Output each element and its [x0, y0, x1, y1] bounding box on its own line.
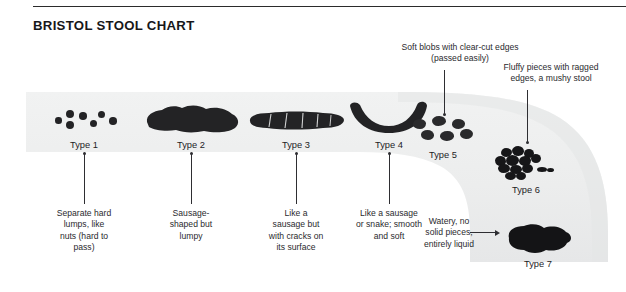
type-label-1: Type 1	[70, 140, 98, 150]
type-label-4: Type 4	[375, 140, 403, 150]
caption-line: shaped but	[148, 219, 234, 230]
type-label-6: Type 6	[512, 185, 540, 195]
callout-line: Watery, no	[403, 216, 495, 227]
caption-line: nuts (hard to	[41, 231, 127, 242]
caption-line: Separate hard	[41, 208, 127, 219]
caption-line: sausage but	[251, 219, 341, 230]
specimen-type-7	[500, 222, 576, 256]
caption-line: its surface	[251, 242, 341, 253]
caption-line: lumps, like	[41, 219, 127, 230]
page-title: BRISTOL STOOL CHART	[33, 18, 195, 33]
caption-line: pass)	[41, 242, 127, 253]
type-label-5: Type 5	[429, 150, 457, 160]
leader-line-type-7	[470, 232, 496, 233]
callout-type-6: Fluffy pieces with ragged edges, a mushy…	[477, 62, 625, 85]
type-label-7: Type 7	[524, 259, 552, 269]
leader-line-type-3	[296, 154, 297, 204]
leader-dot-type-5	[443, 113, 446, 116]
specimen-type-2	[140, 102, 244, 136]
callout-type-7: Watery, no solid pieces, entirely liquid	[403, 216, 495, 250]
caption-line: lumpy	[148, 231, 234, 242]
caption-type-2: Sausage- shaped but lumpy	[148, 208, 234, 242]
callout-line: entirely liquid	[403, 239, 495, 250]
leader-dot-type-6	[526, 141, 529, 144]
leader-line-type-6	[527, 90, 528, 142]
leader-line-type-4	[389, 154, 390, 204]
caption-line: with cracks on	[251, 231, 341, 242]
callout-line: Fluffy pieces with ragged	[477, 62, 625, 73]
specimen-type-3	[245, 108, 349, 132]
leader-line-type-2	[191, 154, 192, 204]
caption-type-1: Separate hard lumps, like nuts (hard to …	[41, 208, 127, 254]
callout-line: solid pieces,	[403, 227, 495, 238]
type-label-2: Type 2	[177, 140, 205, 150]
type-label-3: Type 3	[282, 140, 310, 150]
leader-line-type-5	[444, 70, 445, 114]
caption-type-3: Like a sausage but with cracks on its su…	[251, 208, 341, 254]
leader-line-type-1	[84, 154, 85, 204]
callout-line: edges, a mushy stool	[477, 73, 625, 84]
bristol-stool-chart-infographic: BRISTOL STOOL CHART Type 1 Type 2	[0, 0, 626, 292]
header-divider	[33, 6, 626, 7]
caption-line: Like a	[251, 208, 341, 219]
leader-arrow-type-7	[495, 230, 500, 236]
specimen-type-4	[344, 100, 434, 136]
caption-line: Sausage-	[148, 208, 234, 219]
callout-line: Soft blobs with clear-cut edges	[370, 42, 550, 53]
